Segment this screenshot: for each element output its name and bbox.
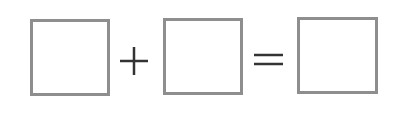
operand-box-2[interactable]	[163, 18, 243, 95]
result-box[interactable]	[297, 17, 378, 94]
plus-icon	[119, 46, 149, 76]
operand-box-1[interactable]	[30, 19, 110, 96]
equals-icon	[253, 52, 284, 68]
